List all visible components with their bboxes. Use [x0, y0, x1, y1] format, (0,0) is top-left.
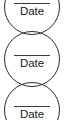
date-stamp-2[interactable]: Date [4, 31, 60, 87]
date-stamp-3-content: Date [14, 106, 50, 120]
date-stamp-3[interactable]: Date [4, 82, 60, 120]
date-stamp-3-label: Date [20, 108, 44, 120]
date-stamp-column: Date Date Date [0, 0, 65, 120]
date-stamp-1-content: Date [14, 3, 50, 27]
date-stamp-1-label: Date [20, 5, 44, 27]
date-stamp-3-rule [14, 106, 50, 107]
date-stamp-2-rule [14, 55, 50, 56]
date-stamp-2-content: Date [14, 55, 50, 79]
date-stamp-1-rule [14, 3, 50, 4]
date-stamp-2-label: Date [20, 57, 44, 79]
date-stamp-1[interactable]: Date [4, 0, 60, 35]
